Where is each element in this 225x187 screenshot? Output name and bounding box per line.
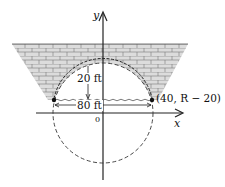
point-label: (40, R − 20) — [156, 93, 221, 104]
width-label: 80 ft — [76, 100, 103, 111]
y-axis-label: y — [93, 10, 99, 21]
height-label: 20 ft — [77, 73, 102, 84]
x-axis-label: x — [174, 118, 180, 129]
right-point — [150, 98, 154, 102]
left-point — [52, 98, 56, 102]
origin-label: 0 — [95, 116, 100, 124]
arch-diagram: y x 0 20 ft 80 ft (40, R − 20) — [0, 0, 225, 187]
